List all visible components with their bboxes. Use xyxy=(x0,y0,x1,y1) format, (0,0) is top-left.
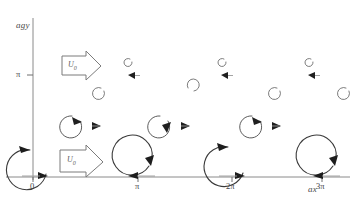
vortex-upper-4 xyxy=(338,87,350,99)
mid-vortex-row xyxy=(60,116,281,138)
vortex-mid-1 xyxy=(60,116,101,138)
y-axis-label: agy xyxy=(16,20,30,30)
vortex-arrowhead xyxy=(145,155,154,166)
x-tick-label-3pi: 3π xyxy=(316,181,325,191)
top-vortex-row xyxy=(124,58,313,66)
vortex-arrowhead xyxy=(217,143,228,151)
axis-group xyxy=(6,18,350,182)
vortex-baseline-pi xyxy=(112,135,155,179)
vortex-diagram-figure: agy ax π 0 π 2π 3π U0 U0 xyxy=(0,0,353,201)
advection-arrow-upper-3 xyxy=(308,72,320,79)
baseline-vortex-row xyxy=(6,135,340,190)
vortex-arrowhead xyxy=(19,146,30,153)
vortex-top-2 xyxy=(218,58,226,66)
vortex-arrowhead xyxy=(313,172,323,179)
vortex-arrowhead xyxy=(128,172,138,179)
x-tick-label-0: 0 xyxy=(30,181,34,191)
vortex-baseline-0 xyxy=(6,146,48,190)
vortex-baseline-2pi xyxy=(204,143,245,187)
vortex-upper-2 xyxy=(187,79,199,91)
vortex-upper-1 xyxy=(93,87,105,99)
vortex-mid-2 xyxy=(148,116,190,138)
upper-flow-subscript: 0 xyxy=(74,65,77,71)
upper-flow-arrow-label: U0 xyxy=(68,60,77,71)
lower-flow-arrow-label: U0 xyxy=(67,155,76,166)
diagram-canvas xyxy=(0,0,353,201)
vortex-top-1 xyxy=(124,58,132,66)
x-tick-label-2pi: 2π xyxy=(226,181,235,191)
advection-arrow-upper-1 xyxy=(128,72,140,79)
y-tick-label-pi: π xyxy=(16,69,20,79)
x-tick-label-pi: π xyxy=(135,181,139,191)
vortex-baseline-3pi xyxy=(296,135,340,179)
vortex-mid-3 xyxy=(240,116,281,138)
lower-flow-subscript: 0 xyxy=(73,160,76,166)
vortex-top-3 xyxy=(305,58,313,66)
advection-arrow-upper-2 xyxy=(221,72,233,79)
vortex-arrowhead xyxy=(329,155,338,166)
vortex-arrowhead xyxy=(38,172,48,179)
vortex-upper-3 xyxy=(269,87,281,99)
upper-vortex-row xyxy=(93,72,350,99)
